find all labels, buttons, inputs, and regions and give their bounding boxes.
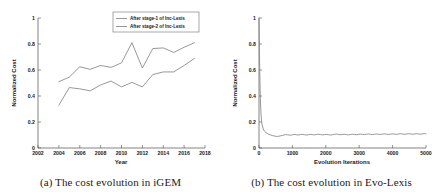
- x-tick-a-4: 2010: [116, 150, 128, 156]
- x-tick-b-4: 4000: [387, 150, 399, 156]
- series-line-stage1: [59, 43, 195, 82]
- chart-a-legend: After stage-1 of Inc-Lexis After stage-2…: [113, 12, 199, 32]
- plot-a: 0 0.2 0.4 0.6 0.8 1: [0, 0, 221, 165]
- y-tick-a-3: 0.6: [28, 67, 35, 73]
- x-tick-a-5: 2012: [137, 150, 149, 156]
- x-tick-b-5: 5000: [420, 150, 432, 156]
- figure-row: 0 0.2 0.4 0.6 0.8 1: [0, 0, 442, 192]
- x-tick-b-1: 1000: [287, 150, 299, 156]
- chart-a-svg: 0 0.2 0.4 0.6 0.8 1: [0, 0, 221, 165]
- y-tick-b-0: 0: [253, 145, 256, 151]
- y-tick-a-2: 0.4: [28, 93, 35, 99]
- y-tick-a-1: 0.2: [28, 119, 35, 125]
- x-tick-b-2: 2000: [320, 150, 332, 156]
- y-tick-a-4: 0.8: [28, 41, 35, 47]
- y-tick-a-5: 1: [32, 15, 35, 21]
- x-tick-b-3: 3000: [353, 150, 365, 156]
- chart-b-x-ticks: 0 1000 2000 3000 4000 5000: [258, 145, 432, 156]
- legend-label-stage1: After stage-1 of Inc-Lexis: [130, 16, 185, 21]
- panel-a: 0 0.2 0.4 0.6 0.8 1: [0, 0, 221, 192]
- x-tick-a-0: 2002: [32, 150, 44, 156]
- y-tick-b-5: 1: [253, 15, 256, 21]
- x-tick-b-0: 0: [258, 150, 261, 156]
- x-axis-title-a: Year: [115, 159, 128, 165]
- chart-b-svg: 0 0.2 0.4 0.6 0.8 1 0 1000 2000: [221, 0, 442, 165]
- y-axis-title-b: Normalized Cost: [232, 59, 238, 106]
- chart-a-axes: [38, 18, 205, 148]
- series-line-stage2: [59, 58, 195, 105]
- x-tick-a-2: 2006: [74, 150, 86, 156]
- plot-b: 0 0.2 0.4 0.6 0.8 1 0 1000 2000: [221, 0, 442, 165]
- y-tick-b-2: 0.4: [249, 93, 256, 99]
- chart-b-axes: [259, 18, 426, 148]
- series-line-evolexis: [259, 18, 426, 136]
- x-tick-a-8: 2018: [199, 150, 211, 156]
- y-tick-b-4: 0.8: [249, 41, 256, 47]
- y-tick-b-3: 0.6: [249, 67, 256, 73]
- x-tick-a-3: 2008: [95, 150, 107, 156]
- chart-a-series: [59, 43, 195, 105]
- chart-a-y-ticks: 0 0.2 0.4 0.6 0.8 1: [28, 15, 41, 151]
- x-tick-a-7: 2016: [178, 150, 190, 156]
- caption-a: (a) The cost evolution in iGEM: [0, 176, 221, 188]
- x-tick-a-1: 2004: [53, 150, 65, 156]
- caption-b: (b) The cost evolution in Evo-Lexis: [221, 176, 442, 188]
- x-axis-title-b: Evolution Iterations: [314, 159, 371, 165]
- y-axis-title-a: Normalized Cost: [11, 59, 17, 106]
- panel-b: 0 0.2 0.4 0.6 0.8 1 0 1000 2000: [221, 0, 442, 192]
- legend-label-stage2: After stage-2 of Inc-Lexis: [130, 24, 185, 29]
- chart-b-series: [259, 18, 426, 136]
- y-tick-b-1: 0.2: [249, 119, 256, 125]
- x-tick-a-6: 2014: [158, 150, 170, 156]
- chart-a-x-ticks: 2002 2004 2006 2008 2010 2012 2014 2016 …: [32, 145, 211, 156]
